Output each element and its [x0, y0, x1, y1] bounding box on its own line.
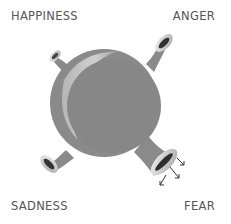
arrow-icon	[160, 175, 166, 185]
emotion-sphere-diagram	[0, 0, 231, 224]
arrow-icon	[170, 167, 179, 178]
sphere-body	[50, 49, 161, 157]
arrow-icon	[177, 158, 184, 165]
